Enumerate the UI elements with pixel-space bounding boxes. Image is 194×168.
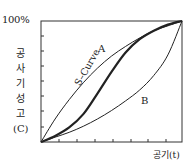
y-axis-label-char: 성: [13, 91, 27, 106]
s-curve-chart: 100% 공 사 기 성 고 (C) 공기(t) A S–Curve B: [0, 0, 194, 168]
curve-b: [41, 21, 182, 142]
curve-s-curve: [41, 21, 182, 142]
y-axis-label-char: 사: [13, 61, 27, 76]
axis-frame: [41, 21, 182, 142]
y-axis-label-char: 공: [13, 46, 27, 61]
y-axis-label-char: (C): [13, 121, 27, 136]
y-axis-label-char: 기: [13, 76, 27, 91]
y-axis-max-label: 100%: [2, 14, 29, 25]
y-axis-label-char: 고: [13, 106, 27, 121]
curve-b-label: B: [141, 95, 148, 106]
x-axis-label: 공기(t): [153, 148, 180, 161]
plot-area: [0, 0, 194, 168]
y-axis-label: 공 사 기 성 고 (C): [13, 46, 27, 136]
curve-a: [41, 21, 182, 142]
